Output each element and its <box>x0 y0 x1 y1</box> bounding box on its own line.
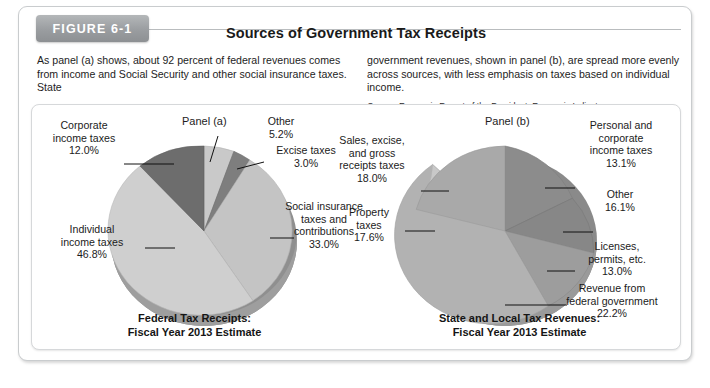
charts-panel: Panel (a) <box>31 104 681 350</box>
figure-description-right: government revenues, shown in panel (b),… <box>367 54 685 95</box>
panel-a-caption: Federal Tax Receipts: Fiscal Year 2013 E… <box>32 311 357 339</box>
figure-title: Sources of Government Tax Receipts <box>19 25 693 41</box>
figure-description-left: As panel (a) shows, about 92 percent of … <box>37 54 355 95</box>
panel-b-label-other: Other 16.1% <box>589 188 651 213</box>
panel-b-label-licenses: Licenses, permits, etc. 13.0% <box>575 240 659 278</box>
panel-a-label-other: Other 5.2% <box>252 115 310 140</box>
panel-b-caption: State and Local Tax Revenues: Fiscal Yea… <box>357 311 682 339</box>
panel-b-label-personal-corporate: Personal and corporate income taxes 13.1… <box>573 119 669 169</box>
figure-card: FIGURE 6-1 Sources of Government Tax Rec… <box>18 6 692 361</box>
panel-b-label-property-taxes: Property taxes 17.6% <box>335 206 403 244</box>
panel-b-label-sales-excise: Sales, excise, and gross receipts taxes … <box>323 134 421 184</box>
panel-a-label-corporate: Corporate income taxes 12.0% <box>38 119 130 157</box>
figure-root: FIGURE 6-1 Sources of Government Tax Rec… <box>0 0 710 388</box>
panel-b: Panel (b) <box>357 105 682 351</box>
panel-a: Panel (a) <box>32 105 357 351</box>
panel-a-label-individual-income: Individual income taxes 46.8% <box>44 223 140 261</box>
